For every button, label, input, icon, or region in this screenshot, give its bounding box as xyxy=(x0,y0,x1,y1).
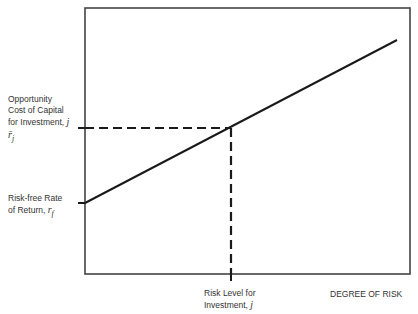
riskfree-label: Risk-free Rate of Return, rf xyxy=(8,193,62,219)
opportunity-j: j xyxy=(67,116,70,127)
riskfree-symbol-sub: f xyxy=(52,209,54,218)
opportunity-symbol: r̄j xyxy=(8,129,69,144)
opportunity-symbol-sub: j xyxy=(12,134,14,143)
riskfree-line2: of Return, rf xyxy=(8,204,62,219)
risklevel-label: Risk Level for Investment, j xyxy=(204,288,256,311)
riskfree-line2-text: of Return, xyxy=(8,205,48,215)
risklevel-line2-text: Investment, xyxy=(204,300,250,310)
opportunity-line3-text: for Investment, xyxy=(8,117,67,127)
market-line xyxy=(85,40,397,203)
opportunity-line1: Opportunity xyxy=(8,94,69,105)
opportunity-line3: for Investment, j xyxy=(8,116,69,128)
opportunity-cost-label: Opportunity Cost of Capital for Investme… xyxy=(8,94,69,144)
plot-frame xyxy=(85,8,410,274)
riskfree-line1: Risk-free Rate xyxy=(8,193,62,204)
risklevel-line2: Investment, j xyxy=(204,299,256,311)
opportunity-line2: Cost of Capital xyxy=(8,105,69,116)
x-axis-title: DEGREE OF RISK xyxy=(330,289,402,300)
chart-canvas xyxy=(0,0,418,314)
risklevel-line1: Risk Level for xyxy=(204,288,256,299)
risklevel-j: j xyxy=(250,299,253,310)
